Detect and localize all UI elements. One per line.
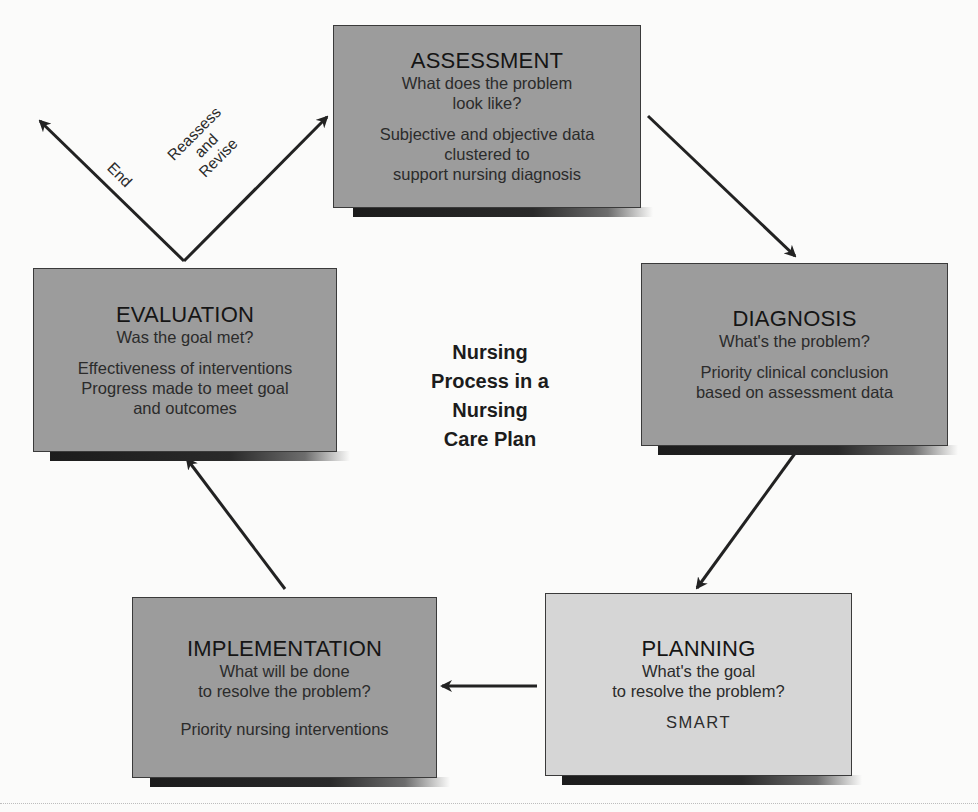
detail-line: based on assessment data xyxy=(696,382,893,402)
question-line: to resolve the problem? xyxy=(198,681,370,701)
arrow-evaluation-to-end xyxy=(40,121,184,261)
reassess-revise-label: Reassess and Revise xyxy=(160,99,253,192)
step-diagnosis: DIAGNOSIS What's the problem? Priority c… xyxy=(641,263,948,446)
title-line: Nursing xyxy=(395,396,585,425)
planning-detail: SMART xyxy=(666,712,731,732)
evaluation-question: Was the goal met? xyxy=(117,327,254,347)
diagnosis-title: DIAGNOSIS xyxy=(732,307,856,331)
detail-line: clustered to xyxy=(380,144,595,164)
detail-line: and outcomes xyxy=(78,398,292,418)
evaluation-detail: Effectiveness of interventions Progress … xyxy=(78,358,292,418)
diagram-title: Nursing Process in a Nursing Care Plan xyxy=(395,338,585,454)
end-label: End xyxy=(104,159,136,191)
question-line: Was the goal met? xyxy=(117,327,254,347)
detail-line: support nursing diagnosis xyxy=(380,164,595,184)
assessment-shadow xyxy=(353,207,653,217)
title-line: Process in a xyxy=(395,367,585,396)
arrow-assessment-to-diagnosis xyxy=(648,116,795,256)
title-line: Nursing xyxy=(395,338,585,367)
implementation-shadow xyxy=(150,777,450,787)
question-line: What does the problem xyxy=(402,73,573,93)
bottom-divider xyxy=(0,803,978,804)
assessment-detail: Subjective and objective data clustered … xyxy=(380,124,595,184)
assessment-title: ASSESSMENT xyxy=(411,49,563,73)
implementation-detail: Priority nursing interventions xyxy=(180,719,388,739)
implementation-title: IMPLEMENTATION xyxy=(187,637,382,661)
title-line: Care Plan xyxy=(395,425,585,454)
question-line: to resolve the problem? xyxy=(612,681,784,701)
arrow-diagnosis-to-planning xyxy=(697,452,796,588)
implementation-question: What will be done to resolve the problem… xyxy=(198,661,370,701)
question-line: What's the problem? xyxy=(719,331,870,351)
step-evaluation: EVALUATION Was the goal met? Effectivene… xyxy=(33,268,337,452)
planning-title: PLANNING xyxy=(641,637,755,661)
arrow-implementation-to-evaluation xyxy=(187,459,285,589)
detail-line: Progress made to meet goal xyxy=(78,378,292,398)
diagnosis-detail: Priority clinical conclusion based on as… xyxy=(696,362,893,402)
end-label-text: End xyxy=(104,159,136,191)
evaluation-shadow xyxy=(50,451,350,461)
assessment-question: What does the problem look like? xyxy=(402,73,573,113)
question-line: What's the goal xyxy=(612,661,784,681)
detail-line: Subjective and objective data xyxy=(380,124,595,144)
detail-line: Priority clinical conclusion xyxy=(696,362,893,382)
question-line: What will be done xyxy=(198,661,370,681)
detail-line: SMART xyxy=(666,712,731,732)
step-planning: PLANNING What's the goal to resolve the … xyxy=(545,593,852,776)
question-line: look like? xyxy=(402,93,573,113)
detail-line: Effectiveness of interventions xyxy=(78,358,292,378)
diagnosis-question: What's the problem? xyxy=(719,331,870,351)
step-implementation: IMPLEMENTATION What will be done to reso… xyxy=(132,597,437,778)
detail-line: Priority nursing interventions xyxy=(180,719,388,739)
evaluation-title: EVALUATION xyxy=(116,303,254,327)
step-assessment: ASSESSMENT What does the problem look li… xyxy=(333,25,641,208)
planning-shadow xyxy=(562,775,862,785)
diagnosis-shadow xyxy=(658,445,958,455)
nursing-process-diagram: End Reassess and Revise ASSESSMENT What … xyxy=(0,0,978,812)
planning-question: What's the goal to resolve the problem? xyxy=(612,661,784,701)
